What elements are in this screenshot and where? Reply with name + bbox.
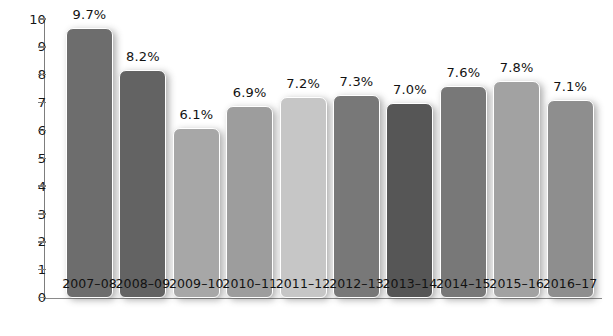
y-axis-tick-mark — [38, 102, 46, 103]
bar[interactable] — [386, 103, 433, 298]
bar[interactable] — [280, 97, 327, 298]
bar-value-label: 7.1% — [544, 80, 597, 93]
y-axis-tick: 1 — [0, 263, 46, 276]
x-axis-tick-label: 2012–13 — [326, 277, 387, 290]
bar-value-label: 9.7% — [63, 8, 116, 21]
bar-value-label: 7.0% — [383, 83, 436, 96]
y-axis-tick: 4 — [0, 180, 46, 193]
x-axis-tick-label: 2010–11 — [219, 277, 280, 290]
bar-value-label: 6.1% — [170, 108, 223, 121]
y-axis-tick-mark — [38, 74, 46, 75]
bar-value-label: 6.9% — [223, 86, 276, 99]
y-axis-tick-mark — [38, 269, 46, 270]
y-axis-tick: 5 — [0, 152, 46, 165]
bar[interactable] — [440, 86, 487, 298]
y-axis-tick-mark — [38, 158, 46, 159]
y-axis-tick: 0 — [0, 291, 46, 304]
bar[interactable] — [66, 28, 113, 298]
x-axis-tick-label: 2016–17 — [540, 277, 601, 290]
x-axis-tick-label: 2007–08 — [59, 277, 120, 290]
bar-chart: 109876543210 9.7%2007–088.2%2008–096.1%2… — [0, 0, 613, 336]
bar[interactable] — [226, 106, 273, 298]
y-axis-tick: 8 — [0, 68, 46, 81]
bar[interactable] — [119, 70, 166, 298]
y-axis-tick: 3 — [0, 208, 46, 221]
y-axis-tick-mark — [38, 130, 46, 131]
y-axis-tick-mark — [38, 46, 46, 47]
bar[interactable] — [173, 128, 220, 298]
y-axis-tick-mark — [38, 241, 46, 242]
x-axis-tick-label: 2009–10 — [166, 277, 227, 290]
bar-value-label: 7.6% — [437, 66, 490, 79]
x-axis-tick-label: 2011–12 — [273, 277, 334, 290]
y-axis-tick-mark — [38, 297, 46, 298]
bar[interactable] — [333, 95, 380, 298]
x-axis-tick-label: 2014–15 — [433, 277, 494, 290]
bar-value-label: 8.2% — [116, 50, 169, 63]
bar-value-label: 7.8% — [490, 61, 543, 74]
y-axis-tick: 9 — [0, 40, 46, 53]
x-axis-tick-label: 2013–14 — [379, 277, 440, 290]
x-axis-tick-label: 2008–09 — [112, 277, 173, 290]
bar-value-label: 7.2% — [277, 77, 330, 90]
y-axis-tick-mark — [38, 213, 46, 214]
bar[interactable] — [493, 81, 540, 298]
x-axis-tick-label: 2015–16 — [486, 277, 547, 290]
y-axis-tick: 6 — [0, 124, 46, 137]
y-axis-tick: 10 — [0, 13, 46, 26]
bar[interactable] — [547, 100, 594, 298]
bar-value-label: 7.3% — [330, 75, 383, 88]
y-axis-tick-mark — [38, 185, 46, 186]
y-axis-tick: 7 — [0, 96, 46, 109]
y-axis-tick-mark — [38, 18, 46, 19]
y-axis-tick: 2 — [0, 235, 46, 248]
